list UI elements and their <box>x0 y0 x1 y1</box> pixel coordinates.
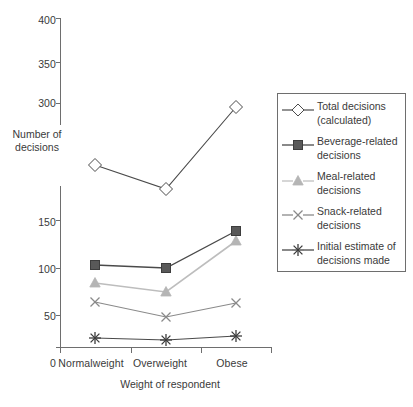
marker-asterisk-normalweight <box>89 332 101 344</box>
legend-label-line1: Initial estimate of <box>317 240 407 254</box>
legend-label-line2: decisions <box>317 219 407 233</box>
series-beverage-related <box>91 227 241 273</box>
series-line-total-decisions <box>95 107 236 189</box>
marker-cross-x-overweight <box>162 313 171 322</box>
series-line-beverage-related <box>95 231 236 268</box>
series-line-snack-related <box>95 302 236 317</box>
legend-label-line2: decisions <box>317 184 407 198</box>
legend-label-line1: Snack-related <box>317 205 407 219</box>
legend-label-meal-related: Meal-related decisions <box>317 170 407 197</box>
marker-cross-x-normalweight <box>91 298 100 307</box>
series-initial-estimate <box>89 330 242 346</box>
legend-item-initial-estimate: Initial estimate of decisions made <box>278 242 407 272</box>
open-diamond-icon <box>281 102 315 118</box>
filled-square-icon <box>281 137 315 153</box>
marker-triangle-obese <box>231 236 241 246</box>
legend-item-snack-related: Snack-related decisions <box>278 207 407 237</box>
cross-x-icon <box>281 207 315 223</box>
chart-legend: Total decisions (calculated) Beverage-re… <box>277 93 406 272</box>
chart-figure: 400 350 300 150 100 50 0 Number of decis… <box>0 0 413 407</box>
marker-cross-x-obese <box>232 299 241 308</box>
marker-square-overweight <box>162 264 171 273</box>
legend-label-line2: decisions <box>317 149 407 163</box>
legend-label-beverage-related: Beverage-related decisions <box>317 135 407 162</box>
legend-item-beverage-related: Beverage-related decisions <box>278 137 407 167</box>
series-total-decisions <box>89 101 243 196</box>
filled-triangle-icon <box>281 172 315 188</box>
marker-asterisk-obese <box>230 330 242 342</box>
legend-item-meal-related: Meal-related decisions <box>278 172 407 202</box>
marker-asterisk-overweight <box>160 334 172 346</box>
legend-label-line1: Beverage-related <box>317 135 407 149</box>
marker-diamond-normalweight <box>89 159 102 172</box>
marker-square-obese <box>232 227 241 236</box>
asterisk-icon <box>281 242 315 258</box>
marker-square-normalweight <box>91 261 100 270</box>
legend-item-total-decisions: Total decisions (calculated) <box>278 102 407 132</box>
legend-label-snack-related: Snack-related decisions <box>317 205 407 232</box>
legend-label-initial-estimate: Initial estimate of decisions made <box>317 240 407 267</box>
legend-label-line1: Meal-related <box>317 170 407 184</box>
marker-triangle-normalweight <box>90 278 100 288</box>
legend-label-line1: Total decisions <box>317 100 407 114</box>
legend-label-line2: decisions made <box>317 254 407 268</box>
legend-label-total-decisions: Total decisions (calculated) <box>317 100 407 127</box>
series-snack-related <box>91 298 241 322</box>
legend-label-line2: (calculated) <box>317 114 407 128</box>
